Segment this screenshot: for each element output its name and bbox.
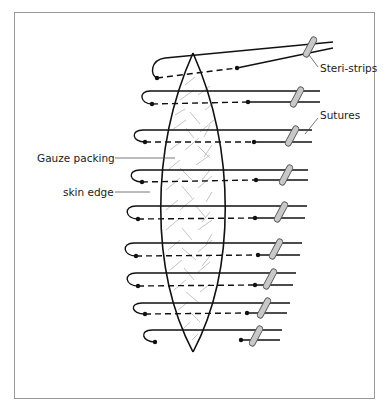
- wound-diagram: Steri-strips Sutures Gauze packing skin …: [0, 0, 385, 405]
- steri-strips: [248, 36, 318, 347]
- skin-edge-right: [193, 53, 225, 352]
- label-gauze-packing: Gauze packing: [37, 152, 115, 164]
- label-skin-edge: skin edge: [63, 186, 114, 198]
- label-sutures: Sutures: [320, 109, 360, 121]
- label-steri-strips: Steri-strips: [320, 62, 377, 74]
